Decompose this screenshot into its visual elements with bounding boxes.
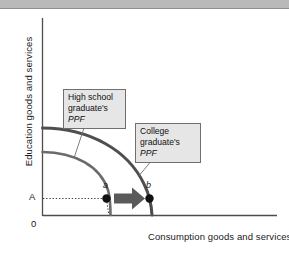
point-a-label: a: [103, 180, 108, 190]
callout-college-ppf: College graduate's PPF: [135, 123, 201, 163]
shift-arrow-icon: [114, 188, 145, 210]
callout-highschool-ppf: High school graduate's PPF: [63, 89, 126, 129]
callout-highschool-line2: graduate's PPF: [68, 103, 121, 125]
callout-college-line2: graduate's PPF: [140, 137, 196, 159]
y-tick-label-A: A: [29, 191, 35, 202]
callout-highschool-ppf-italic: PPF: [68, 114, 85, 124]
y-axis-label: Education goods and services: [23, 22, 34, 182]
data-point-a: [102, 194, 110, 202]
callout-college-ppf-italic: PPF: [140, 148, 157, 158]
ppf-curve-highschool: [43, 152, 111, 215]
point-b-label: b: [146, 180, 151, 190]
ppf-figure: Education goods and services Consumption…: [0, 0, 289, 253]
callout-college-line1: College: [140, 126, 196, 137]
callout-college-text: graduate's: [140, 137, 180, 147]
x-axis-label: Consumption goods and services: [148, 231, 289, 242]
origin-label: 0: [31, 218, 36, 229]
callout-highschool-line1: High school: [68, 92, 121, 103]
callout-highschool-text: graduate's: [68, 103, 108, 113]
data-point-b: [145, 194, 153, 202]
